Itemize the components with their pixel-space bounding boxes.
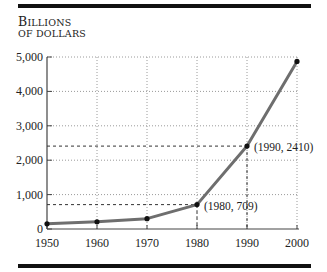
line-chart: 01,0002,0003,0004,0005,00019501960197019…: [0, 0, 327, 272]
data-point: [94, 219, 99, 224]
y-tick-label: 4,000: [16, 84, 43, 98]
data-point: [244, 143, 249, 148]
annotation-label: (1980, 709): [204, 200, 258, 213]
x-tick-label: 1950: [35, 236, 59, 250]
x-tick-label: 1990: [235, 236, 259, 250]
data-point: [294, 59, 299, 64]
y-tick-label: 0: [37, 222, 43, 236]
x-tick-label: 1980: [185, 236, 209, 250]
data-point: [44, 221, 49, 226]
y-tick-label: 1,000: [16, 188, 43, 202]
data-point: [144, 216, 149, 221]
y-tick-label: 5,000: [16, 50, 43, 64]
x-tick-label: 1960: [85, 236, 109, 250]
bottom-rule: [18, 264, 311, 268]
y-tick-label: 3,000: [16, 119, 43, 133]
annotation-label: (1990, 2410): [254, 141, 314, 154]
x-tick-label: 1970: [135, 236, 159, 250]
data-point: [194, 202, 199, 207]
x-tick-label: 2000: [285, 236, 309, 250]
y-tick-label: 2,000: [16, 153, 43, 167]
